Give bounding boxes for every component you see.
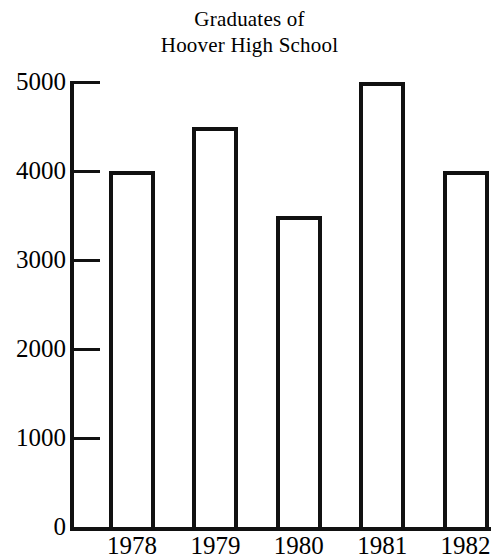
x-tick-label-1978: 1978 [92,532,172,559]
bar-1981 [359,82,405,531]
y-tick-label-1000: 1000 [2,425,66,450]
y-tick-4000 [70,170,100,173]
x-tick-label-1979: 1979 [175,532,255,559]
y-tick-label-5000: 5000 [2,69,66,94]
bar-1979 [192,127,238,532]
y-tick-label-3000: 3000 [2,247,66,272]
x-tick-label-1981: 1981 [342,532,422,559]
plot-area: 5000 4000 3000 2000 1000 0 1978 1979 198… [0,0,499,560]
y-tick-label-wrap-1000: 1000 [0,425,66,450]
y-tick-3000 [70,259,100,262]
y-tick-label-2000: 2000 [2,336,66,361]
bar-1980 [276,216,322,532]
y-tick-label-wrap-5000: 5000 [0,69,66,94]
y-tick-label-0: 0 [2,514,66,539]
y-tick-2000 [70,348,100,351]
y-tick-label-wrap-4000: 4000 [0,158,66,183]
y-tick-label-wrap-0: 0 [0,514,66,539]
y-tick-5000 [70,81,100,84]
x-tick-label-1982: 1982 [426,532,499,559]
y-tick-1000 [70,437,100,440]
y-tick-label-wrap-3000: 3000 [0,247,66,272]
y-tick-label-4000: 4000 [2,158,66,183]
bar-1982 [443,171,489,531]
bar-1978 [109,171,155,531]
bar-chart: Graduates of Hoover High School 5000 400… [0,0,499,560]
y-tick-label-wrap-2000: 2000 [0,336,66,361]
x-tick-label-1980: 1980 [259,532,339,559]
y-axis-line [70,81,74,531]
